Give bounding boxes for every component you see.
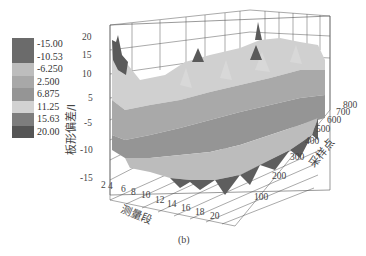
x-tick: 10: [141, 190, 151, 200]
legend-label: 2.500: [37, 77, 60, 87]
legend-label: -10.53: [37, 52, 63, 62]
legend-label: 6.875: [37, 89, 60, 99]
x-tick: 4: [108, 181, 113, 191]
legend-swatch: [12, 51, 34, 64]
z-tick: 5: [88, 93, 93, 103]
y-tick: 800: [343, 100, 358, 110]
y-tick: 400: [305, 136, 320, 146]
color-legend: -15.00 -10.53 -6.250 2.500 6.875 11.25 1…: [12, 38, 63, 138]
z-tick: -5: [84, 118, 92, 128]
z-tick: 20: [82, 32, 92, 42]
x-tick: 18: [195, 207, 205, 217]
legend-label: 20.00: [37, 127, 60, 137]
x-tick: 20: [210, 211, 220, 221]
legend-label: -6.250: [37, 64, 63, 74]
legend-swatch: [12, 113, 34, 126]
figure-caption: (b): [178, 234, 190, 245]
legend-item: 15.63: [12, 113, 63, 126]
y-tick: 300: [290, 152, 305, 162]
legend-swatch: [12, 126, 34, 139]
x-tick: 12: [155, 195, 165, 205]
legend-item: 2.500: [12, 76, 63, 89]
z-axis-title: 板形偏差/I: [64, 104, 78, 155]
z-axis: 20 15 10 5 -5 -10 -15 板形偏差/I: [64, 32, 93, 183]
x-tick: 6: [121, 184, 126, 194]
legend-item: -10.53: [12, 51, 63, 64]
y-tick: 100: [254, 192, 269, 202]
x-tick: 2: [101, 180, 106, 190]
legend-item: -15.00: [12, 38, 63, 51]
legend-swatch: [12, 76, 34, 89]
legend-item: 6.875: [12, 88, 63, 101]
x-tick: 16: [181, 203, 191, 213]
legend-label: 11.25: [37, 102, 59, 112]
legend-swatch: [12, 88, 34, 101]
legend-swatch: [12, 38, 34, 51]
z-tick: 15: [82, 50, 92, 60]
legend-swatch: [12, 101, 34, 114]
y-tick: 200: [272, 171, 287, 181]
legend-label: -15.00: [37, 39, 63, 49]
x-tick: 8: [131, 187, 136, 197]
z-tick: -10: [80, 145, 93, 155]
z-tick: 10: [82, 69, 92, 79]
z-tick: -15: [80, 173, 93, 183]
y-tick: 500: [316, 124, 331, 134]
legend-label: 15.63: [37, 114, 60, 124]
legend-item: -6.250: [12, 63, 63, 76]
legend-item: 11.25: [12, 101, 63, 114]
legend-item: 20.00: [12, 126, 63, 139]
x-tick: 14: [167, 199, 177, 209]
legend-swatch: [12, 63, 34, 76]
